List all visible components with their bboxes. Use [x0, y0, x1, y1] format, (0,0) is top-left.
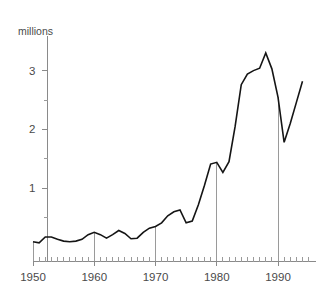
y-tick-label: 2: [29, 123, 35, 135]
x-tick-label: 1980: [204, 271, 230, 283]
x-tick-label: 1970: [143, 271, 169, 283]
x-tick-label: 1990: [265, 271, 291, 283]
y-axis-major-ticks: [42, 71, 48, 189]
y-axis-unit-label: millions: [18, 25, 53, 37]
x-tick-label: 1960: [81, 271, 107, 283]
x-axis-minor-ticks: [39, 257, 309, 262]
x-axis-tick-labels: 19501960197019801990: [20, 271, 291, 283]
line-chart: 123 19501960197019801990 millions: [0, 0, 323, 302]
y-tick-label: 3: [29, 65, 35, 77]
x-tick-label: 1950: [20, 271, 46, 283]
data-series-line: [33, 53, 303, 243]
y-axis-minor-ticks: [44, 100, 48, 218]
vertical-reference-lines: [33, 97, 278, 260]
y-axis-tick-labels: 123: [29, 65, 35, 195]
y-tick-label: 1: [29, 182, 35, 194]
chart-container: 123 19501960197019801990 millions: [0, 0, 323, 302]
